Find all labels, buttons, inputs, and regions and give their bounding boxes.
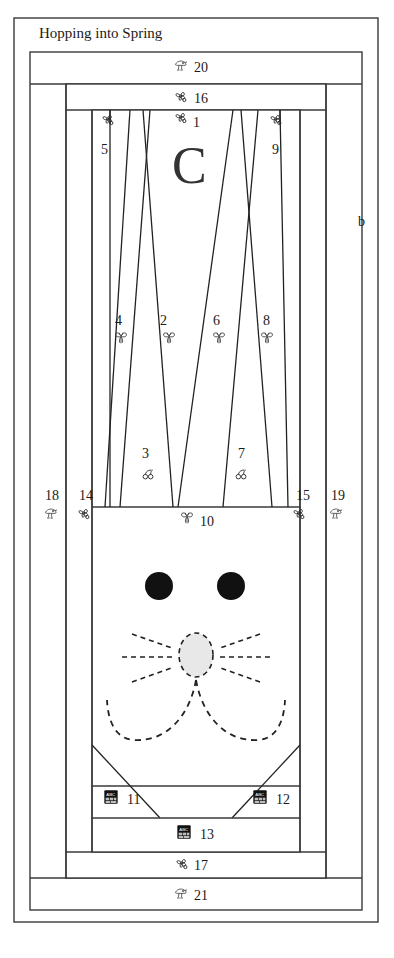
block-number-15: 15 <box>296 489 310 503</box>
block-number-10: 10 <box>200 515 214 529</box>
block-number-11: 11 <box>127 793 140 807</box>
block-number-6: 6 <box>213 314 220 328</box>
block-number-19: 19 <box>331 489 345 503</box>
block-number-2: 2 <box>160 314 167 328</box>
block-number-20: 20 <box>194 61 208 75</box>
quilt-pattern-diagram: Hopping into Spring C b 12345678910ABC11… <box>0 0 394 958</box>
block-number-21: 21 <box>194 889 208 903</box>
block-number-14: 14 <box>79 489 93 503</box>
block-number-4: 4 <box>115 314 122 328</box>
block-number-1: 1 <box>193 116 200 130</box>
block-number-5: 5 <box>101 143 108 157</box>
side-marker-b: b <box>358 215 365 229</box>
nose <box>179 633 213 677</box>
block-number-3: 3 <box>142 447 149 461</box>
block-number-18: 18 <box>45 489 59 503</box>
center-letter: C <box>172 140 207 192</box>
block-number-7: 7 <box>238 447 245 461</box>
block-number-9: 9 <box>272 143 279 157</box>
block-number-13: 13 <box>200 828 214 842</box>
eye-right <box>217 572 245 600</box>
block-number-17: 17 <box>194 859 208 873</box>
block-number-16: 16 <box>194 92 208 106</box>
page-title: Hopping into Spring <box>39 26 162 41</box>
eye-left <box>145 572 173 600</box>
block-number-8: 8 <box>263 314 270 328</box>
block-number-12: 12 <box>276 793 290 807</box>
